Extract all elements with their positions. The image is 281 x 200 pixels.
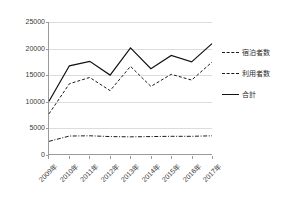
x-tick-mark	[69, 156, 70, 159]
legend-item-合計[interactable]: 合計	[222, 90, 280, 99]
plot-area	[48, 22, 212, 155]
legend-item-宿泊者数[interactable]: 宿泊者数	[222, 48, 280, 57]
legend-item-利用者数[interactable]: 利用者数	[222, 69, 280, 78]
legend-label: 利用者数	[242, 69, 270, 78]
y-tick-label: 25000	[26, 18, 45, 26]
x-tick-mark	[89, 156, 90, 159]
line-chart: 0500010000150002000025000 2009年2010年2011…	[0, 0, 281, 200]
x-tick-mark	[171, 156, 172, 159]
legend-label: 宿泊者数	[242, 48, 270, 57]
x-tick-mark	[151, 156, 152, 159]
y-axis-labels: 0500010000150002000025000	[0, 22, 45, 155]
y-tick-label: 10000	[26, 98, 45, 106]
series-line-合計	[49, 44, 212, 102]
series-lines	[49, 22, 212, 154]
legend-label: 合計	[242, 90, 256, 99]
x-tick-mark	[110, 156, 111, 159]
series-line-宿泊者数	[49, 136, 212, 142]
y-tick-label: 5000	[29, 124, 45, 132]
chart-legend: 宿泊者数利用者数合計	[222, 48, 280, 99]
y-tick-label: 0	[41, 151, 45, 159]
legend-swatch-icon	[222, 49, 239, 56]
legend-swatch-icon	[222, 70, 239, 77]
y-tick-label: 15000	[26, 71, 45, 79]
x-tick-mark	[48, 156, 49, 159]
x-tick-mark	[130, 156, 131, 159]
y-tick-label: 20000	[26, 45, 45, 53]
x-tick-mark	[192, 156, 193, 159]
legend-swatch-icon	[222, 91, 239, 98]
x-tick-mark	[212, 156, 213, 159]
x-axis-labels: 2009年2010年2011年2012年2013年2014年2015年2016年…	[48, 156, 212, 200]
series-line-利用者数	[49, 62, 212, 114]
